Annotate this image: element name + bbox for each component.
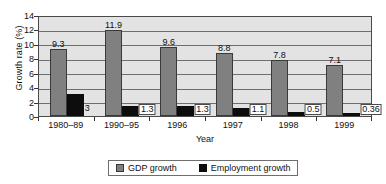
plot-area: 9.3 3 11.9 1.3 9.6 1.3 — [38, 16, 372, 117]
x-tick-label: 1998 — [261, 120, 317, 130]
bar-value-label: 8.8 — [218, 44, 231, 53]
legend-item-gdp-growth[interactable]: GDP growth — [116, 163, 177, 173]
bar-value-label: 9.6 — [163, 38, 176, 47]
bar-groups: 9.3 3 11.9 1.3 9.6 1.3 — [39, 17, 371, 116]
bar-employment[interactable]: 0.5 — [288, 112, 305, 116]
bar-employment[interactable]: 3 — [67, 94, 84, 116]
bar-gdp[interactable]: 9.3 — [50, 49, 67, 116]
bar-gdp[interactable]: 11.9 — [105, 30, 122, 116]
bar-value-label: 7.1 — [329, 56, 342, 65]
y-tick-label: 6 — [16, 70, 34, 79]
bar-value-label: 11.9 — [105, 21, 122, 30]
y-tick-label: 2 — [16, 99, 34, 108]
bar-group: 9.3 3 — [39, 17, 94, 116]
legend-label: Employment growth — [211, 163, 291, 173]
x-tick-label: 1990–95 — [94, 120, 150, 130]
x-axis-labels: 1980–89 1990–95 1996 1997 1998 1999 — [38, 120, 372, 130]
bar-employment[interactable]: 0.36 — [343, 113, 360, 116]
y-tick-label: 12 — [16, 26, 34, 35]
bar-group: 7.8 0.5 — [260, 17, 315, 116]
growth-rate-bar-chart: Growth rate (%) 14 12 10 8 6 4 2 0 9.3 — [0, 0, 386, 184]
chart-legend: GDP growth Employment growth — [108, 160, 298, 176]
bar-value-label: 7.8 — [273, 51, 286, 60]
bar-employment[interactable]: 1.3 — [122, 106, 139, 116]
bar-gdp[interactable]: 7.8 — [271, 60, 288, 116]
y-tick-label: 0 — [16, 113, 34, 122]
bar-group: 9.6 1.3 — [150, 17, 205, 116]
x-tick-label: 1997 — [205, 120, 261, 130]
x-tick-label: 1999 — [316, 120, 372, 130]
y-tick-label: 10 — [16, 41, 34, 50]
y-tick-label: 14 — [16, 12, 34, 21]
legend-swatch-icon — [199, 164, 207, 172]
x-tick-label: 1996 — [149, 120, 205, 130]
bar-employment[interactable]: 1.1 — [233, 108, 250, 116]
x-axis-title: Year — [38, 134, 372, 144]
legend-item-employment-growth[interactable]: Employment growth — [199, 163, 291, 173]
bar-group: 8.8 1.1 — [205, 17, 260, 116]
bar-gdp[interactable]: 9.6 — [160, 47, 177, 116]
y-axis-ticks: 14 12 10 8 6 4 2 0 — [10, 0, 34, 184]
y-tick-label: 4 — [16, 84, 34, 93]
bar-gdp[interactable]: 7.1 — [326, 65, 343, 116]
bar-value-label: 9.3 — [52, 40, 65, 49]
bar-group: 7.1 0.36 — [316, 17, 371, 116]
bar-value-label: 3 — [85, 104, 90, 113]
bar-value-label: 0.36 — [360, 104, 382, 115]
legend-label: GDP growth — [128, 163, 177, 173]
y-tick-label: 8 — [16, 55, 34, 64]
bar-gdp[interactable]: 8.8 — [216, 53, 233, 116]
bar-employment[interactable]: 1.3 — [177, 106, 194, 116]
bar-group: 11.9 1.3 — [94, 17, 149, 116]
legend-swatch-icon — [116, 164, 124, 172]
x-tick-label: 1980–89 — [38, 120, 94, 130]
